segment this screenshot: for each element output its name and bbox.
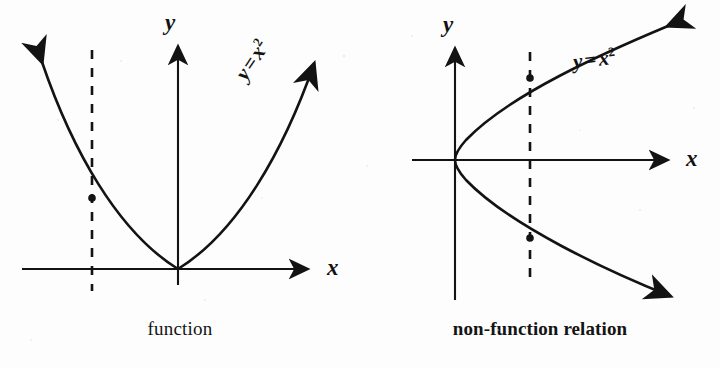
equation-label-nonfunction: y=x2 — [572, 47, 617, 73]
intersection-point-function — [88, 194, 96, 202]
plot-function — [0, 0, 360, 312]
panel-function: y x y=x2 function — [0, 0, 360, 368]
y-axis-label-nonfunction: y — [443, 13, 453, 36]
y-axis-label-function: y — [165, 11, 175, 34]
panel-nonfunction: y x y=x2 non-function relation — [360, 0, 720, 368]
x-axis-label-nonfunction: x — [686, 147, 698, 170]
x-axis-label-function: x — [327, 256, 339, 279]
figure-function-vs-nonfunction: y x y=x2 function y x y=x2 non-function … — [0, 0, 720, 368]
plot-nonfunction — [360, 0, 720, 312]
intersection-point-lower-nonfunction — [526, 234, 534, 242]
intersection-point-upper-nonfunction — [526, 74, 534, 82]
caption-nonfunction: non-function relation — [360, 318, 720, 340]
caption-function: function — [0, 318, 360, 340]
